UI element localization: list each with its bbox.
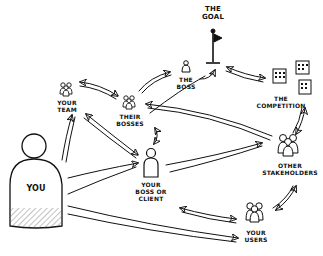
bosses-group-icon	[123, 96, 135, 109]
bosses-label: THEIR BOSSES	[116, 113, 144, 127]
users-label-line1: YOUR	[244, 229, 267, 236]
users-label: YOUR USERS	[244, 229, 267, 243]
team-group-icon	[60, 83, 72, 96]
arrow-you-team	[62, 115, 75, 162]
stakeholders-label: OTHER STAKEHOLDERS	[262, 162, 318, 176]
arrow-bosses-boss	[139, 72, 171, 93]
arrow-you-users	[68, 206, 238, 242]
stakeholders-label-line2: STAKEHOLDERS	[262, 169, 318, 176]
bosses-label-line2: BOSSES	[116, 120, 144, 127]
client-label: YOUR BOSS OR CLIENT	[135, 181, 166, 202]
client-label-line3: CLIENT	[135, 195, 166, 202]
you-person-icon	[10, 134, 62, 228]
you-label: YOU	[27, 184, 46, 193]
arrow-stakeholders-users	[273, 186, 296, 210]
goal-label-line1: THE	[202, 5, 224, 13]
stakeholders-label-line1: OTHER	[262, 162, 318, 169]
stakeholder-diagram	[0, 0, 323, 256]
competition-label-line1: THE	[257, 95, 306, 102]
team-label-line1: YOUR	[57, 99, 77, 106]
boss-label: THE BOSS	[177, 76, 196, 90]
users-group-icon	[246, 203, 263, 222]
arrow-client-stakeholders	[166, 143, 262, 172]
team-label: YOUR TEAM	[57, 99, 77, 113]
competition-label: THE COMPETITION	[257, 95, 306, 109]
boss-label-line2: BOSS	[177, 83, 196, 90]
competition-label-line2: COMPETITION	[257, 102, 306, 109]
users-label-line2: USERS	[244, 236, 267, 243]
boss-person-icon	[182, 61, 190, 72]
bosses-label-line1: THEIR	[116, 113, 144, 120]
arrow-bosses-client	[154, 128, 157, 144]
arrow-team-bosses	[80, 82, 118, 99]
goal-label-line2: GOAL	[202, 13, 224, 21]
flag-icon	[206, 29, 222, 63]
arrow-client-users	[180, 208, 236, 223]
client-person-icon	[144, 149, 158, 178]
team-label-line2: TEAM	[57, 106, 77, 113]
boss-label-line1: THE	[177, 76, 196, 83]
stakeholders-group-icon	[278, 135, 298, 157]
arrow-stakeholders-bosses	[146, 104, 272, 140]
arrow-goal-competition	[226, 67, 265, 82]
client-label-line2: BOSS OR	[135, 188, 166, 195]
arrow-competition-stakeholders	[293, 108, 305, 134]
goal-label: THE GOAL	[202, 5, 224, 21]
arrow-you-client	[68, 163, 138, 194]
client-label-line1: YOUR	[135, 181, 166, 188]
buildings-icon	[273, 61, 311, 94]
